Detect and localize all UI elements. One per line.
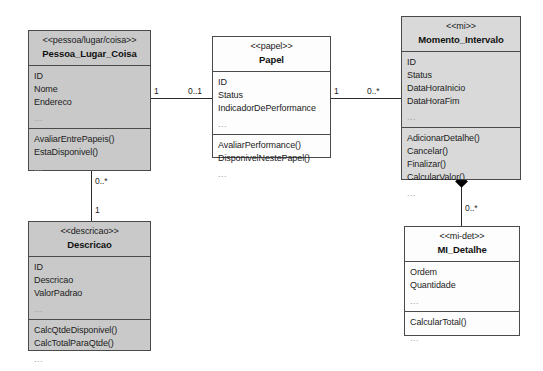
attribute-item: Endereco (34, 96, 145, 109)
operation-item: Finalizar() (407, 158, 515, 171)
class-stereotype: <<mi-det>> (409, 230, 515, 242)
class-name: Momento_Intervalo (406, 33, 516, 47)
attribute-item: ID (407, 56, 515, 69)
attributes-ellipsis: ... (410, 295, 514, 308)
attribute-item: Status (218, 89, 325, 102)
attribute-item: Status (407, 69, 515, 82)
operations-ellipsis: ... (34, 162, 145, 175)
class-stereotype: <<descricao>> (33, 225, 146, 237)
attribute-item: Ordem (410, 266, 514, 279)
uml-class-diagram: 1 0..1 1 0..* 0..* 1 0..* <<pessoa/lugar… (0, 0, 543, 371)
class-header-pessoa-lugar-coisa: <<pessoa/lugar/coisa>> Pessoa_Lugar_Cois… (29, 31, 150, 66)
operations-ellipsis: ... (34, 353, 145, 366)
multiplicity-plc-papel-target: 0..1 (188, 86, 202, 96)
class-box-mi-detalhe[interactable]: <<mi-det>> MI_Detalhe Ordem Quantidade .… (404, 226, 520, 336)
class-box-papel[interactable]: <<papel>> Papel ID Status IndicadorDePer… (212, 36, 331, 158)
class-header-momento-intervalo: <<mi>> Momento_Intervalo (402, 17, 520, 52)
operation-item: EstaDisponivel() (34, 146, 145, 159)
class-box-momento-intervalo[interactable]: <<mi>> Momento_Intervalo ID Status DataH… (401, 16, 521, 180)
class-operations-papel: AvaliarPerformance() DisponivelNestePape… (213, 135, 330, 184)
class-header-papel: <<papel>> Papel (213, 37, 330, 72)
operation-item: AvaliarEntrePapeis() (34, 133, 145, 146)
class-name: Papel (217, 53, 326, 67)
class-name: Pessoa_Lugar_Coisa (33, 47, 146, 61)
class-header-mi-detalhe: <<mi-det>> MI_Detalhe (405, 227, 519, 262)
class-operations-descricao: CalcQtdeDisponivel() CalcTotalParaQtde()… (29, 320, 150, 369)
operation-item: CalcTotalParaQtde() (34, 337, 145, 350)
class-box-descricao[interactable]: <<descricao>> Descricao ID Descricao Val… (28, 221, 151, 351)
attribute-item: ValorPadrao (34, 287, 145, 300)
attributes-ellipsis: ... (218, 118, 325, 131)
attributes-ellipsis: ... (34, 112, 145, 125)
class-operations-momento-intervalo: AdicionarDetalhe() Cancelar() Finalizar(… (402, 128, 520, 203)
attribute-item: ID (34, 261, 145, 274)
association-line-papel-mi (331, 98, 401, 99)
operation-item: CalcQtdeDisponivel() (34, 324, 145, 337)
class-header-descricao: <<descricao>> Descricao (29, 222, 150, 257)
multiplicity-plc-papel-source: 1 (154, 86, 159, 96)
multiplicity-papel-mi-target: 0..* (367, 86, 379, 96)
attribute-item: Nome (34, 83, 145, 96)
class-attributes-mi-detalhe: Ordem Quantidade ... (405, 262, 519, 312)
attributes-ellipsis: ... (34, 303, 145, 316)
class-attributes-momento-intervalo: ID Status DataHoraInicio DataHoraFim ... (402, 52, 520, 128)
operations-ellipsis: ... (407, 187, 515, 200)
operations-ellipsis: ... (410, 332, 514, 345)
class-operations-mi-detalhe: CalcularTotal() ... (405, 312, 519, 348)
operation-item: CalcularValor() (407, 171, 515, 184)
class-attributes-papel: ID Status IndicadorDePerformance ... (213, 72, 330, 135)
class-attributes-descricao: ID Descricao ValorPadrao ... (29, 257, 150, 320)
multiplicity-papel-mi-source: 1 (334, 86, 339, 96)
attribute-item: DataHoraInicio (407, 82, 515, 95)
association-line-plc-papel (151, 98, 213, 99)
attribute-item: DataHoraFim (407, 95, 515, 108)
class-attributes-pessoa-lugar-coisa: ID Nome Endereco ... (29, 66, 150, 129)
operation-item: CalcularTotal() (410, 316, 514, 329)
class-stereotype: <<papel>> (217, 40, 326, 52)
association-line-plc-descricao (91, 171, 92, 221)
multiplicity-mi-midetalhe-target: 0..* (465, 203, 477, 213)
class-stereotype: <<pessoa/lugar/coisa>> (33, 34, 146, 46)
attribute-item: Quantidade (410, 279, 514, 292)
attribute-item: IndicadorDePerformance (218, 102, 325, 115)
attribute-item: Descricao (34, 274, 145, 287)
class-name: Descricao (33, 238, 146, 252)
operation-item: Cancelar() (407, 145, 515, 158)
operation-item: DisponivelNestePapel() (218, 152, 325, 165)
multiplicity-plc-descricao-target: 1 (95, 205, 100, 215)
attribute-item: ID (218, 76, 325, 89)
operation-item: AvaliarPerformance() (218, 139, 325, 152)
attributes-ellipsis: ... (407, 111, 515, 124)
operations-ellipsis: ... (218, 168, 325, 181)
class-stereotype: <<mi>> (406, 20, 516, 32)
attribute-item: ID (34, 70, 145, 83)
class-box-pessoa-lugar-coisa[interactable]: <<pessoa/lugar/coisa>> Pessoa_Lugar_Cois… (28, 30, 151, 171)
class-name: MI_Detalhe (409, 243, 515, 257)
operation-item: AdicionarDetalhe() (407, 132, 515, 145)
class-operations-pessoa-lugar-coisa: AvaliarEntrePapeis() EstaDisponivel() ..… (29, 129, 150, 178)
